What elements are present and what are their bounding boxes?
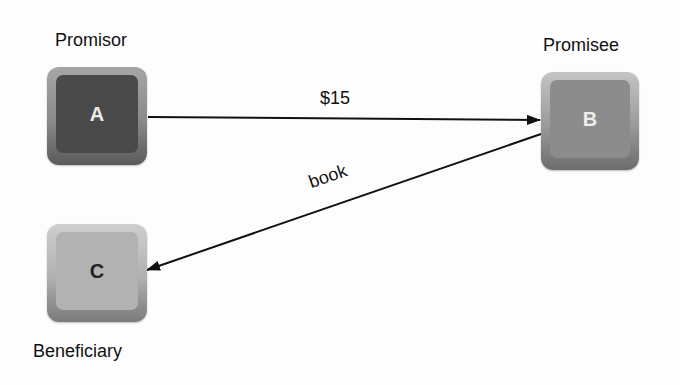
beneficiary-label: Beneficiary — [33, 341, 122, 362]
node-c-letter: C — [56, 232, 138, 310]
contract-diagram: Promisor A Promisee B C Beneficiary $15 … — [0, 0, 680, 385]
edge-b-to-c-arrow — [147, 134, 541, 270]
promisee-label: Promisee — [543, 35, 619, 56]
node-c-beneficiary: C — [47, 224, 147, 322]
node-a-letter: A — [56, 75, 138, 153]
diagram-edges — [0, 0, 680, 385]
edge-a-to-b-label: $15 — [320, 88, 350, 109]
node-a-promisor: A — [47, 67, 147, 165]
promisor-label: Promisor — [55, 30, 127, 51]
node-b-letter: B — [550, 80, 630, 158]
edge-a-to-b-arrow — [148, 117, 540, 120]
node-b-promisee: B — [541, 72, 639, 170]
